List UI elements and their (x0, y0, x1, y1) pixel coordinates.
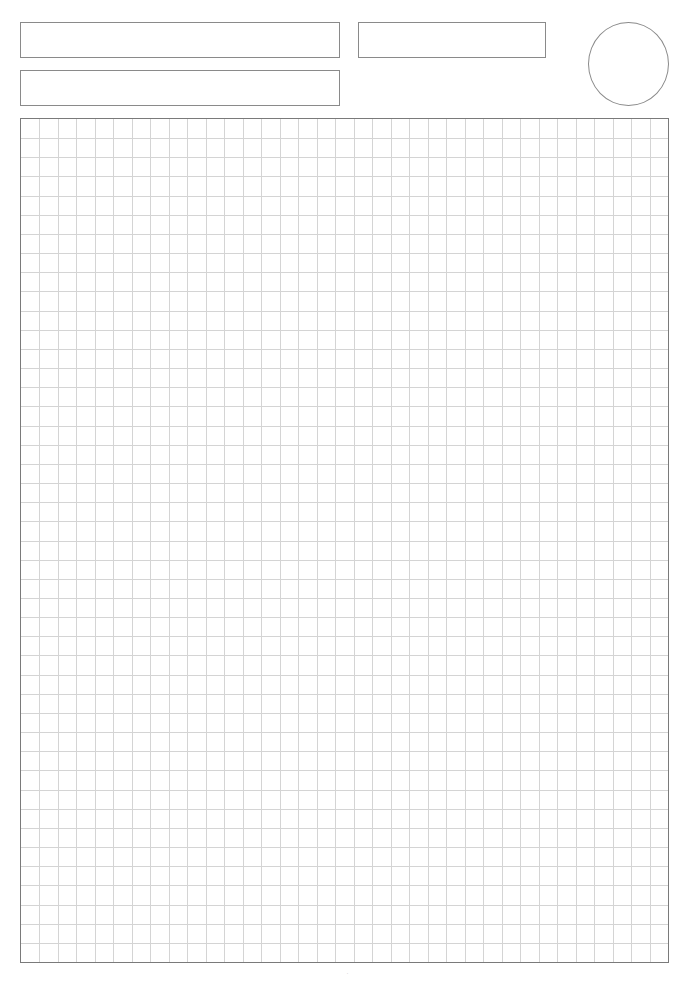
header-field-subtitle[interactable] (20, 70, 340, 106)
page-marker: · (0, 970, 695, 976)
header-field-date[interactable] (358, 22, 546, 58)
graph-paper-grid[interactable] (20, 118, 669, 963)
header-field-name[interactable] (20, 22, 340, 58)
grid-lines (21, 119, 668, 962)
header-circle-stamp[interactable] (588, 22, 669, 106)
